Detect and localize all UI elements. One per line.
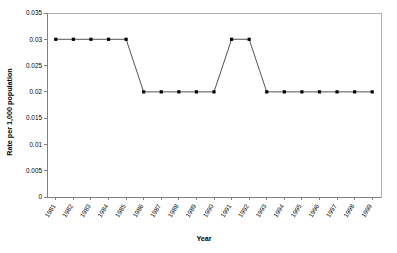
data-point-marker	[353, 90, 356, 93]
data-point-marker	[230, 38, 233, 41]
y-tick-label: 0.025	[26, 62, 42, 69]
y-tick-label: 0.03	[30, 36, 43, 43]
data-point-marker	[335, 90, 338, 93]
data-point-marker	[300, 90, 303, 93]
y-axis-title: Rate per 1,000 population	[5, 68, 14, 155]
y-tick-label: 0.02	[30, 88, 43, 95]
data-point-marker	[89, 38, 92, 41]
data-point-marker	[142, 90, 145, 93]
data-point-marker	[177, 90, 180, 93]
data-point-marker	[160, 90, 163, 93]
chart-container: 00.0050.010.0150.020.0250.030.035 198119…	[0, 0, 397, 253]
x-axis-title: Year	[196, 234, 211, 243]
line-chart: 00.0050.010.0150.020.0250.030.035 198119…	[0, 0, 397, 253]
data-point-marker	[318, 90, 321, 93]
data-point-marker	[54, 38, 57, 41]
data-point-marker	[265, 90, 268, 93]
data-point-marker	[212, 90, 215, 93]
data-point-marker	[248, 38, 251, 41]
data-point-marker	[371, 90, 374, 93]
y-tick-label: 0.005	[26, 167, 42, 174]
data-point-marker	[107, 38, 110, 41]
y-tick-label: 0.015	[26, 114, 42, 121]
data-point-marker	[195, 90, 198, 93]
data-point-marker	[283, 90, 286, 93]
y-tick-label: 0.01	[30, 141, 43, 148]
data-point-marker	[72, 38, 75, 41]
y-tick-label: 0	[38, 193, 42, 200]
y-tick-label: 0.035	[26, 9, 42, 16]
data-point-marker	[125, 38, 128, 41]
